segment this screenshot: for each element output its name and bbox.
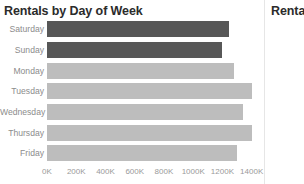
bar-row-label: Thursday: [265, 128, 304, 138]
bar-row-label: Friday: [0, 148, 47, 158]
bar-track: [47, 104, 264, 120]
x-axis-tick-label: 1200K: [211, 166, 234, 177]
bar-row[interactable]: Monday: [0, 60, 264, 81]
bar-row-label: Tuesday: [0, 86, 47, 96]
x-axis-tick-label: 0K: [42, 166, 52, 177]
bar-row[interactable]: Friday: [0, 143, 264, 164]
bar-row-label: Wednesday: [0, 107, 47, 117]
bar-row-label: Tuesday: [265, 86, 304, 96]
x-axis-tick-label: 200K: [67, 166, 86, 177]
dashboard-root: Rentals by Day of Week SaturdaySundayMon…: [0, 0, 304, 184]
bar-row[interactable]: Saturday: [265, 19, 304, 40]
bar-tuesday[interactable]: [47, 83, 252, 99]
bar-monday[interactable]: [47, 63, 234, 79]
bar-track: [47, 63, 264, 79]
bar-track: [47, 42, 264, 58]
bar-row-label: Saturday: [265, 24, 304, 34]
bar-track: [47, 145, 264, 161]
bar-row-label: Monday: [265, 66, 304, 76]
bar-row[interactable]: Saturday: [0, 19, 264, 40]
x-axis-tick-label: 800K: [155, 166, 174, 177]
bar-row-label: Wednesday: [265, 107, 304, 117]
bar-row-label: Friday: [265, 148, 304, 158]
bar-row-label: Saturday: [0, 24, 47, 34]
bar-row[interactable]: Friday: [265, 143, 304, 164]
bar-row-label: Sunday: [265, 45, 304, 55]
bar-track: [47, 21, 264, 37]
bar-row[interactable]: Wednesday: [265, 102, 304, 123]
bar-row[interactable]: Wednesday: [0, 102, 264, 123]
bar-row[interactable]: Monday: [265, 60, 304, 81]
bar-row-label: Thursday: [0, 128, 47, 138]
bar-row[interactable]: Sunday: [265, 40, 304, 61]
bar-row[interactable]: Tuesday: [265, 81, 304, 102]
chart-panel-secondary: Rentals by Day of Week SaturdaySundayMon…: [264, 0, 304, 184]
x-axis-tick-label: 600K: [125, 166, 144, 177]
x-axis-tick-label: 400K: [96, 166, 115, 177]
bar-row-label: Sunday: [0, 45, 47, 55]
bar-row-label: Monday: [0, 66, 47, 76]
bar-sunday[interactable]: [47, 42, 222, 58]
bar-track: [47, 125, 264, 141]
bar-row[interactable]: Sunday: [0, 40, 264, 61]
x-axis-tick-label: 1400K: [240, 166, 263, 177]
bar-row[interactable]: Thursday: [265, 122, 304, 143]
bar-chart-plot-area: SaturdaySundayMondayTuesdayWednesdayThur…: [0, 19, 264, 164]
bar-chart-plot-area-secondary: SaturdaySundayMondayTuesdayWednesdayThur…: [265, 19, 304, 164]
x-axis: 0K200K400K600K800K1000K1200K1400K: [47, 166, 264, 180]
page-title-secondary: Rentals by Day of Week: [271, 4, 304, 18]
x-axis-tick-label: 1000K: [182, 166, 205, 177]
bar-friday[interactable]: [47, 145, 237, 161]
bar-thursday[interactable]: [47, 125, 252, 141]
bar-row[interactable]: Thursday: [0, 122, 264, 143]
page-title: Rentals by Day of Week: [4, 4, 143, 18]
bar-track: [47, 83, 264, 99]
bar-row[interactable]: Tuesday: [0, 81, 264, 102]
chart-panel-primary: Rentals by Day of Week SaturdaySundayMon…: [0, 0, 264, 184]
bar-wednesday[interactable]: [47, 104, 243, 120]
bar-saturday[interactable]: [47, 21, 229, 37]
